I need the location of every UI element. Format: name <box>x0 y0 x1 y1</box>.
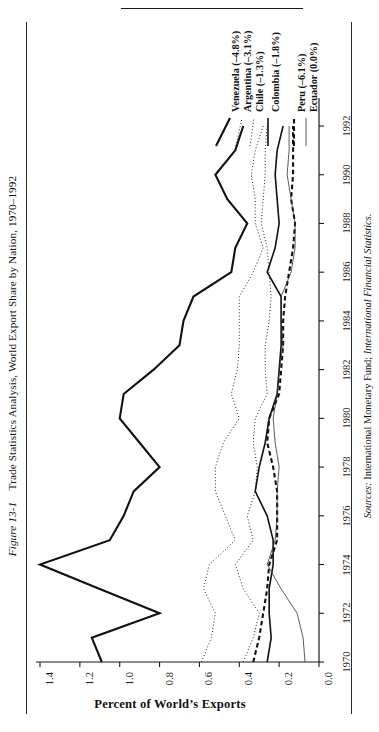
legend-swatch-venezuela <box>216 118 230 146</box>
year-tick-label: 1988 <box>341 213 352 234</box>
percent-tick-label: 0.2 <box>283 672 294 685</box>
legend-label-chile: Chile (–1.3%) <box>254 51 265 112</box>
series-line-ecuador <box>267 126 305 662</box>
source-publication: International Financial Statistics. <box>362 214 373 355</box>
source-note: Sources: International Monetary Fund; In… <box>355 0 379 732</box>
legend-label-colombia: Colombia (–1.8%) <box>270 32 281 112</box>
top-divider <box>121 8 303 9</box>
percent-tick-label: 0.0 <box>323 672 334 685</box>
legend-label-peru: Peru (–6.1%) <box>296 54 307 112</box>
legend-swatch-chile <box>250 118 254 146</box>
year-tick-label: 1982 <box>341 359 352 380</box>
year-tick-label: 1990 <box>341 164 352 185</box>
percent-tick-label: 1.0 <box>124 672 135 685</box>
series-line-chile <box>235 126 271 662</box>
series-line-peru <box>253 126 295 662</box>
axis-title: Percent of World’s Exports <box>0 697 340 712</box>
year-tick-label: 1984 <box>341 310 352 331</box>
figure-caption: Figure 13-1 Trade Statistics Analysis, W… <box>0 0 24 732</box>
year-tick-label: 1976 <box>341 505 352 526</box>
year-tick-label: 1978 <box>341 457 352 478</box>
percent-tick-label: 1.4 <box>44 672 55 685</box>
legend-label-argentina: Argentina (–3.1%) <box>242 31 253 113</box>
chart-plot-area: 0.00.20.40.60.81.01.21.41970197219741976… <box>30 14 348 720</box>
source-label: Sources: <box>362 482 373 518</box>
year-tick-label: 1972 <box>341 603 352 624</box>
year-tick-label: 1992 <box>341 116 352 137</box>
line-chart-svg <box>30 14 348 720</box>
year-tick-label: 1974 <box>341 554 352 575</box>
year-tick-label: 1986 <box>341 262 352 283</box>
percent-tick-label: 0.8 <box>164 672 175 685</box>
year-tick-label: 1980 <box>341 408 352 429</box>
year-tick-label: 1970 <box>341 652 352 673</box>
legend-label-venezuela: Venezuela (–4.8%) <box>230 31 241 112</box>
series-line-venezuela <box>40 126 247 662</box>
legend-label-ecuador: Ecuador (0.0%) <box>308 43 319 112</box>
source-text: International Monetary Fund; <box>362 354 373 480</box>
caption-divider <box>26 22 27 714</box>
figure-number: Figure 13-1 <box>6 502 18 556</box>
figure-caption-text: Trade Statistics Analysis, World Export … <box>6 176 18 491</box>
percent-tick-label: 0.6 <box>203 672 214 685</box>
percent-tick-label: 1.2 <box>84 672 95 685</box>
percent-tick-label: 0.4 <box>243 672 254 685</box>
chart-series <box>40 126 305 662</box>
